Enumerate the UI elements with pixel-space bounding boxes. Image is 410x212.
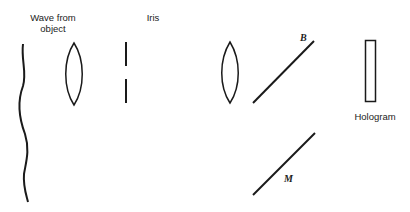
wave-label-line2: object: [25, 23, 81, 34]
lens-1: [66, 43, 83, 105]
hologram-label: Hologram: [350, 111, 400, 122]
mirror-label: M: [284, 173, 293, 184]
mirror-line: [253, 133, 315, 195]
hologram-plate: [366, 41, 376, 102]
beam-splitter-label: B: [300, 32, 307, 43]
wavefront-wave: [19, 44, 28, 202]
lens-2: [222, 42, 239, 103]
iris-label: Iris: [143, 12, 163, 23]
beam-splitter-line: [253, 41, 314, 103]
wave-label-line1: Wave from: [25, 12, 81, 23]
